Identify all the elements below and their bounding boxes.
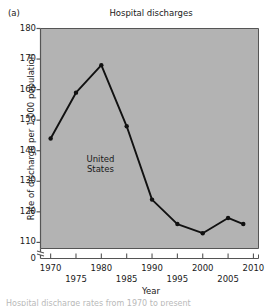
x-tick-label-upper: 1990 — [135, 263, 169, 273]
series-annotation-line1: United — [86, 154, 114, 165]
x-axis-tick-labels: 197019801990200020101975198519952005 — [0, 0, 270, 306]
x-tick-label-upper: 2010 — [236, 263, 270, 273]
series-annotation: UnitedStates — [86, 154, 114, 175]
x-tick-label-upper: 2000 — [186, 263, 220, 273]
figure-caption: Hospital discharge rates from 1970 to pr… — [6, 299, 270, 306]
x-tick-label-upper: 1970 — [34, 263, 68, 273]
x-tick-label-lower: 1995 — [160, 274, 194, 284]
series-annotation-line2: States — [86, 164, 114, 175]
x-tick-label-lower: 1975 — [59, 274, 93, 284]
x-tick-label-upper: 1980 — [84, 263, 118, 273]
x-tick-label-lower: 1985 — [110, 274, 144, 284]
x-tick-label-lower: 2005 — [211, 274, 245, 284]
figure-panel: (a) Hospital discharges Rate of discharg… — [0, 0, 270, 306]
